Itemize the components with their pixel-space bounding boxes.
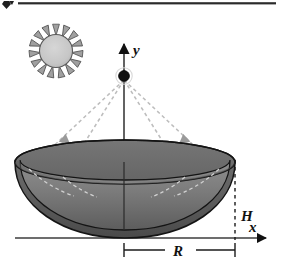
figure-container: H R y x <box>0 0 283 272</box>
diamond-bullet-icon <box>2 1 11 9</box>
parabolic-dish-figure: H R y x <box>0 0 283 272</box>
R-label: R <box>172 243 183 259</box>
sun-icon <box>29 24 83 78</box>
paraboloid-reflector <box>15 140 235 238</box>
point-source-dot <box>119 71 130 82</box>
y-axis-label: y <box>131 42 140 58</box>
x-axis-label: x <box>248 219 257 235</box>
sun-disc <box>40 35 73 68</box>
page-rule <box>2 1 276 9</box>
